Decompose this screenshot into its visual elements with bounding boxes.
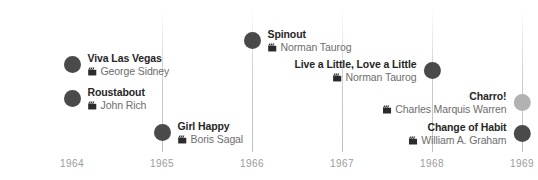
event-text: Charro!Charles Marquis Warren [382, 90, 506, 116]
event-dot[interactable] [514, 94, 531, 111]
event-text: Viva Las VegasGeorge Sidney [88, 52, 170, 78]
event-director-name: John Rich [101, 99, 147, 112]
event-dot[interactable] [154, 124, 171, 141]
clapperboard-icon [382, 105, 391, 114]
event-title: Charro! [469, 90, 506, 103]
event-title: Roustabout [88, 86, 145, 99]
event-dot[interactable] [64, 90, 81, 107]
clapperboard-icon [333, 73, 342, 82]
clapperboard-icon [268, 43, 277, 52]
event-text: Change of HabitWilliam A. Graham [408, 121, 506, 147]
event-title: Live a Little, Love a Little [294, 58, 416, 71]
event-director-row: Norman Taurog [268, 41, 352, 54]
event-dot[interactable] [514, 125, 531, 142]
event-text: Live a Little, Love a LittleNorman Tauro… [294, 58, 416, 84]
timeline-event[interactable]: RoustaboutJohn Rich [64, 86, 147, 112]
event-title: Spinout [268, 28, 306, 41]
timeline-event[interactable]: Charro!Charles Marquis Warren [382, 90, 530, 116]
clapperboard-icon [178, 135, 187, 144]
timeline-event[interactable]: Live a Little, Love a LittleNorman Tauro… [294, 58, 440, 84]
event-title: Viva Las Vegas [88, 52, 162, 65]
event-director-row: Charles Marquis Warren [382, 103, 506, 116]
event-director-name: George Sidney [101, 65, 170, 78]
timeline-event[interactable]: Girl HappyBoris Sagal [154, 120, 244, 146]
event-director-name: Charles Marquis Warren [395, 103, 506, 116]
event-director-row: William A. Graham [408, 134, 506, 147]
timeline-events: Viva Las VegasGeorge SidneyRoustaboutJoh… [0, 0, 538, 180]
clapperboard-icon [88, 67, 97, 76]
event-text: SpinoutNorman Taurog [268, 28, 352, 54]
event-text: RoustaboutJohn Rich [88, 86, 147, 112]
event-title: Change of Habit [428, 121, 507, 134]
clapperboard-icon [408, 136, 417, 145]
event-director-name: William A. Graham [421, 134, 506, 147]
timeline-event[interactable]: Viva Las VegasGeorge Sidney [64, 52, 170, 78]
event-title: Girl Happy [178, 120, 230, 133]
event-director-row: George Sidney [88, 65, 170, 78]
event-director-name: Norman Taurog [346, 71, 417, 84]
film-timeline-chart: 196419651966196719681969 Viva Las VegasG… [0, 0, 538, 180]
event-director-name: Boris Sagal [191, 133, 244, 146]
event-dot[interactable] [244, 32, 261, 49]
event-director-name: Norman Taurog [281, 41, 352, 54]
event-text: Girl HappyBoris Sagal [178, 120, 244, 146]
event-director-row: Norman Taurog [333, 71, 417, 84]
timeline-event[interactable]: SpinoutNorman Taurog [244, 28, 352, 54]
event-director-row: John Rich [88, 99, 147, 112]
timeline-event[interactable]: Change of HabitWilliam A. Graham [408, 121, 530, 147]
event-director-row: Boris Sagal [178, 133, 244, 146]
event-dot[interactable] [64, 56, 81, 73]
event-dot[interactable] [424, 62, 441, 79]
clapperboard-icon [88, 101, 97, 110]
